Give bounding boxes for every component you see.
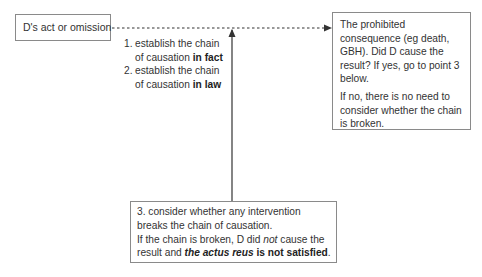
act-or-omission-box: D's act or omission xyxy=(15,14,111,41)
step-in-fact: 1. establish the chain of causation in f… xyxy=(124,37,223,64)
intervention-line-1: 3. consider whether any intervention bre… xyxy=(137,206,301,231)
intervention-box: 3. consider whether any intervention bre… xyxy=(130,201,337,263)
causation-steps: 1. establish the chain of causation in f… xyxy=(124,37,223,91)
act-box-label: D's act or omission xyxy=(23,21,111,33)
consequence-paragraph-1: The prohibited consequence (eg death, GB… xyxy=(340,18,464,86)
consequence-paragraph-2: If no, there is no need to consider whet… xyxy=(340,90,464,131)
step-in-law: 2. establish the chain of causation in l… xyxy=(124,64,223,91)
prohibited-consequence-box: The prohibited consequence (eg death, GB… xyxy=(332,12,471,130)
